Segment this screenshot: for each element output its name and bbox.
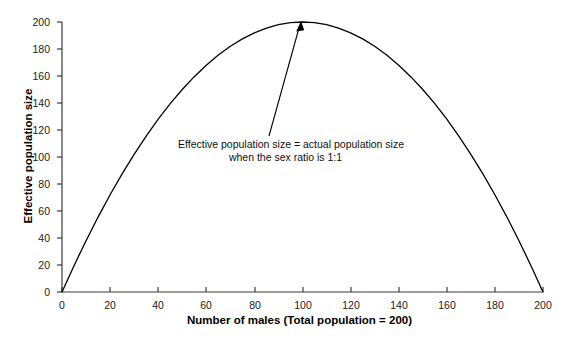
- x-tick-label-80: 80: [249, 299, 261, 311]
- x-tick-label-140: 140: [390, 299, 408, 311]
- chart-container: 200 180 160 140 120 100 80 60 40 20 0 0 …: [0, 0, 571, 340]
- x-tick-label-40: 40: [152, 299, 164, 311]
- x-tick-label-20: 20: [104, 299, 116, 311]
- y-tick-label-0: 0: [20, 286, 50, 298]
- x-tick-label-120: 120: [342, 299, 360, 311]
- x-tick-label-100: 100: [294, 299, 312, 311]
- x-tick-label-0: 0: [59, 299, 65, 311]
- annotation-arrow: [269, 21, 304, 136]
- chart-plot-area: [0, 0, 571, 340]
- peak-annotation-text: Effective population size = actual popul…: [178, 138, 393, 164]
- y-axis-title: Effective population size: [22, 41, 34, 271]
- x-axis-ticks: [62, 287, 543, 292]
- annotation-line-2: when the sex ratio is 1:1: [178, 151, 393, 164]
- x-tick-label-200: 200: [534, 299, 552, 311]
- x-axis-title: Number of males (Total population = 200): [0, 314, 571, 326]
- x-tick-label-180: 180: [486, 299, 504, 311]
- y-axis-ticks: [57, 22, 62, 292]
- x-tick-label-60: 60: [200, 299, 212, 311]
- y-tick-label-200: 200: [20, 16, 50, 28]
- x-tick-label-160: 160: [438, 299, 456, 311]
- annotation-line-1: Effective population size = actual popul…: [178, 138, 393, 151]
